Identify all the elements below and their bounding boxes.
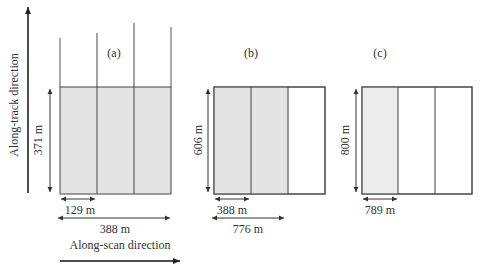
panel-a-cell-width: 129 m <box>65 203 96 217</box>
panel-a-label: (a) <box>107 46 120 60</box>
panel-b-cell-width: 388 m <box>217 203 248 217</box>
panel-a-grid <box>60 87 171 194</box>
panel-c-height: 800 m <box>338 124 352 155</box>
panel-b-height: 606 m <box>191 124 205 155</box>
panel-a-total-width: 388 m <box>100 222 131 236</box>
panel-a: (a) 371 m 129 m 388 m <box>31 23 171 236</box>
panel-b-total-width: 776 m <box>233 222 264 236</box>
panel-b-label: (b) <box>244 46 258 60</box>
along-scan-axis: Along-scan direction <box>60 238 180 261</box>
panel-b: (b) 606 m 388 m 776 m <box>191 46 325 236</box>
along-scan-label: Along-scan direction <box>70 238 171 252</box>
panel-c-label: (c) <box>373 46 386 60</box>
panel-c: (c) 800 m 789 m <box>338 46 472 217</box>
panel-c-cell-width: 789 m <box>365 203 396 217</box>
panel-a-height: 371 m <box>31 124 45 155</box>
along-track-label: Along-track direction <box>7 53 21 157</box>
along-track-axis: Along-track direction <box>7 7 28 193</box>
